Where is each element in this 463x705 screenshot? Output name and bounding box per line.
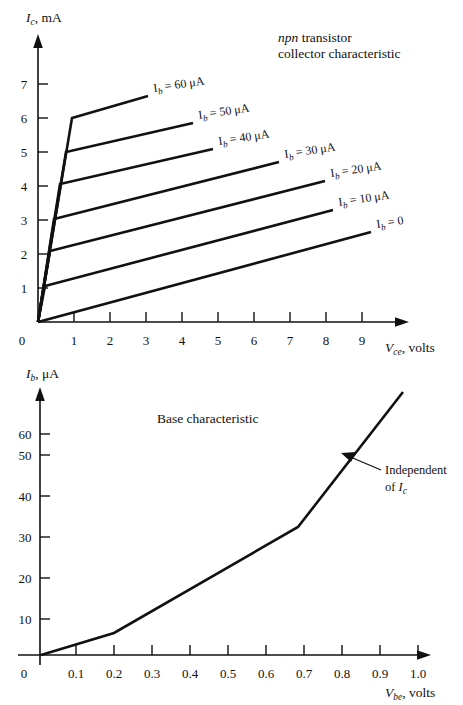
bottom-y-tick-40: 40 (19, 489, 32, 504)
top-y-tick-1: 1 (21, 281, 28, 296)
bottom-x-tick-0-1: 0.1 (68, 666, 84, 681)
bottom-y-tick-20: 20 (19, 571, 32, 586)
bottom-chart-y-ticks (40, 434, 50, 619)
bottom-chart-title: Base characteristic (157, 411, 259, 426)
bottom-chart-y-axis (35, 387, 45, 665)
top-chart-y-ticklabels: 1 2 3 4 5 6 7 (21, 77, 28, 296)
top-chart-x-ticklabels: 0 1 2 3 4 5 6 7 8 9 (19, 333, 366, 348)
curve-label-ib-50: Ib = 50 μA (197, 100, 250, 123)
bottom-x-tick-0-5: 0.5 (220, 666, 236, 681)
top-x-tick-3: 3 (143, 333, 150, 348)
curve-label-ib-60: Ib = 60 μA (152, 73, 205, 96)
top-x-tick-5: 5 (215, 333, 222, 348)
bottom-x-tick-0-9: 0.9 (372, 666, 388, 681)
curve-label-ib-40: Ib = 40 μA (217, 126, 270, 149)
top-x-tick-9: 9 (359, 333, 366, 348)
top-y-tick-5: 5 (21, 145, 28, 160)
annotation-line1: Independent (385, 463, 447, 477)
transistor-characteristics-figure: 1 2 3 4 5 6 7 0 (0, 0, 463, 705)
bottom-x-tick-0-2: 0.2 (106, 666, 122, 681)
bottom-origin-label: 0 (21, 666, 28, 681)
bottom-x-tick-1-0: 1.0 (410, 666, 426, 681)
curve-label-ib-20: Ib = 20 μA (329, 158, 382, 181)
top-y-tick-4: 4 (21, 179, 28, 194)
top-y-tick-6: 6 (21, 111, 28, 126)
top-chart-x-axis (38, 317, 409, 327)
bottom-x-tick-0-3: 0.3 (144, 666, 160, 681)
top-chart-y-ticks (38, 84, 48, 288)
top-x-tick-7: 7 (287, 333, 294, 348)
top-chart-x-axis-title: Vce, volts (385, 340, 435, 357)
top-y-tick-3: 3 (21, 213, 28, 228)
bottom-y-tick-60: 60 (19, 427, 32, 442)
bottom-x-tick-0-8: 0.8 (334, 666, 350, 681)
top-x-tick-8: 8 (323, 333, 330, 348)
top-y-tick-2: 2 (21, 247, 28, 262)
top-chart-x-ticks (74, 312, 362, 322)
bottom-chart-x-axis (18, 650, 431, 660)
bottom-y-tick-10: 10 (19, 612, 32, 627)
bottom-chart-x-ticklabels: 0 0.1 0.2 0.3 0.4 0.5 0.6 0.7 0.8 0.9 1.… (21, 666, 426, 681)
top-chart-y-axis-title: Ic, mA (25, 10, 62, 27)
bottom-chart-x-ticks (76, 645, 418, 655)
top-x-tick-6: 6 (251, 333, 258, 348)
curve-ib-10 (38, 210, 333, 322)
top-chart-group: 1 2 3 4 5 6 7 0 (19, 10, 435, 357)
curve-ib-40 (38, 149, 213, 322)
bottom-x-tick-0-7: 0.7 (296, 666, 313, 681)
annotation-line2: of Ic (385, 480, 408, 496)
top-x-tick-4: 4 (179, 333, 186, 348)
bottom-chart-y-axis-title: Ib, μA (25, 366, 59, 383)
bottom-y-tick-30: 30 (19, 530, 32, 545)
top-origin-label: 0 (19, 333, 26, 348)
annotation-leader (341, 452, 381, 470)
curve-label-ib-0: Ib = 0 (375, 213, 404, 233)
bottom-y-tick-50: 50 (19, 448, 32, 463)
bottom-x-tick-0-6: 0.6 (258, 666, 275, 681)
curve-base-characteristic (41, 392, 403, 655)
bottom-chart-y-ticklabels: 10 20 30 40 50 60 (19, 427, 32, 627)
curve-ib-0 (38, 232, 371, 322)
curve-label-ib-30: Ib = 30 μA (283, 139, 336, 162)
top-chart-title-line2: collector characteristic (278, 46, 401, 61)
curve-label-ib-10: Ib = 10 μA (337, 187, 390, 210)
top-x-tick-1: 1 (71, 333, 78, 348)
curve-ib-30 (38, 162, 279, 322)
curve-ib-50 (38, 123, 193, 322)
bottom-x-tick-0-4: 0.4 (182, 666, 199, 681)
top-chart-y-axis (33, 34, 43, 322)
top-x-tick-2: 2 (107, 333, 114, 348)
bottom-chart-group: 10 20 30 40 50 60 (18, 366, 447, 702)
bottom-chart-x-axis-title: Vbe, volts (385, 685, 435, 702)
top-chart-title-line1: npn transistor (278, 30, 352, 45)
figure-svg: 1 2 3 4 5 6 7 0 (0, 0, 463, 705)
curve-ib-20 (38, 181, 325, 322)
top-y-tick-7: 7 (21, 77, 28, 92)
